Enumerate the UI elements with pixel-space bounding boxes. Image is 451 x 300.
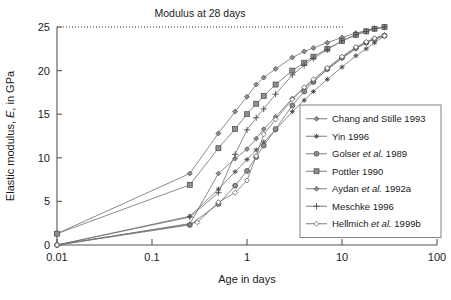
chart-legend: Chang and Stille 1993Yin 1996Golser et a… <box>300 105 441 238</box>
y-tick-label-0: 0 <box>44 239 50 251</box>
data-point-marker <box>233 127 238 132</box>
data-point-marker <box>187 182 192 187</box>
data-point-marker <box>233 169 238 174</box>
y-axis-title: Elastic modulus, E, in GPa <box>4 70 16 201</box>
data-point-marker <box>302 98 307 103</box>
svg-text:Elastic modulus, E, in GPa: Elastic modulus, E, in GPa <box>4 70 16 201</box>
data-point-marker <box>254 101 259 106</box>
legend-item-label: Hellmich et al. 1999b <box>332 218 421 229</box>
x-tick-label-10: 10 <box>336 251 348 263</box>
y-tick-label-10: 10 <box>38 152 50 164</box>
legend-item-label: Pottler 1990 <box>332 166 383 177</box>
y-tick-label-5: 5 <box>44 195 50 207</box>
data-point-marker <box>261 143 266 148</box>
legend-item-label: Chang and Stille 1993 <box>332 113 426 124</box>
legend-item-label: Yin 1996 <box>332 131 369 142</box>
data-point-marker <box>245 157 250 162</box>
data-point-marker <box>353 53 358 58</box>
data-point-marker <box>290 109 295 114</box>
data-point-marker <box>314 151 319 156</box>
data-point-marker <box>233 183 238 188</box>
data-point-marker <box>273 82 278 87</box>
x-axis-title: Age in days <box>218 273 276 285</box>
data-point-marker <box>340 65 345 70</box>
data-point-marker <box>245 112 250 117</box>
data-point-marker <box>273 127 278 132</box>
y-tick-label-15: 15 <box>38 108 50 120</box>
legend-item-label: Aydan et al. 1992a <box>332 183 412 194</box>
data-point-marker <box>245 168 250 173</box>
x-tick-label-0.1: 0.1 <box>144 251 159 263</box>
elastic-modulus-vs-age-chart: Modulus at 28 days 0510152025 0.010.1110… <box>0 0 451 300</box>
data-point-marker <box>290 103 295 108</box>
data-point-marker <box>55 231 60 236</box>
data-point-marker <box>364 46 369 51</box>
data-point-marker <box>314 169 319 174</box>
legend-item-label: Meschke 1996 <box>332 201 394 212</box>
chart-figure: Modulus at 28 days 0510152025 0.010.1110… <box>0 0 451 300</box>
x-tick-label-0.01: 0.01 <box>46 251 67 263</box>
legend-item-label: Golser et al. 1989 <box>332 148 407 159</box>
data-point-marker <box>261 93 266 98</box>
data-point-marker <box>325 77 330 82</box>
x-tick-label-100: 100 <box>428 251 446 263</box>
data-point-marker <box>311 89 316 94</box>
x-tick-label-1: 1 <box>244 251 250 263</box>
y-tick-label-25: 25 <box>38 21 50 33</box>
data-point-marker <box>314 134 319 139</box>
data-point-marker <box>216 146 221 151</box>
chart-annotation-label: Modulus at 28 days <box>154 7 245 19</box>
y-tick-label-20: 20 <box>38 65 50 77</box>
